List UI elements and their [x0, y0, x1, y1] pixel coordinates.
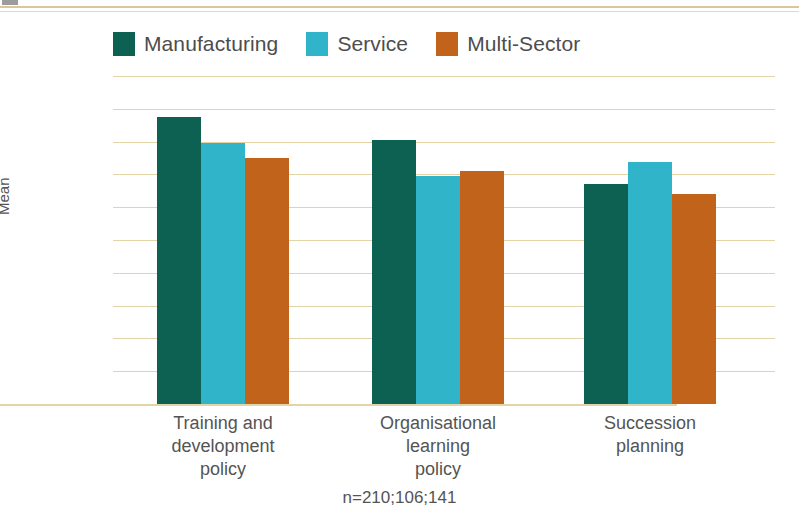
x-axis-category-label-line: policy: [348, 458, 528, 481]
bar-service-group-3[interactable]: [628, 162, 672, 404]
bar-chart: ManufacturingServiceMulti-Sector 5%4.5%4…: [0, 0, 799, 518]
sample-size-annotation: n=210;106;141: [0, 488, 799, 508]
x-axis-category-label-line: policy: [133, 458, 313, 481]
x-axis-category-label: Successionplanning: [560, 412, 740, 458]
bar-manufacturing-group-2[interactable]: [372, 140, 416, 404]
x-axis-category-label-line: Succession: [560, 412, 740, 435]
x-axis-category-label-line: Training and: [133, 412, 313, 435]
bar-service-group-1[interactable]: [201, 143, 245, 404]
x-axis-category-label: Organisationallearningpolicy: [348, 412, 528, 481]
x-axis-category-label-line: learning: [348, 435, 528, 458]
x-axis-baseline: [0, 404, 677, 406]
x-axis-category-label: Training anddevelopmentpolicy: [133, 412, 313, 481]
bar-multi-sector-group-3[interactable]: [672, 194, 716, 404]
x-axis-category-label-line: Organisational: [348, 412, 528, 435]
bar-multi-sector-group-2[interactable]: [460, 171, 504, 404]
bar-series-container: [0, 0, 799, 404]
bar-manufacturing-group-3[interactable]: [584, 184, 628, 404]
bar-service-group-2[interactable]: [416, 176, 460, 404]
bar-manufacturing-group-1[interactable]: [157, 117, 201, 404]
x-axis-category-label-line: planning: [560, 435, 740, 458]
bar-multi-sector-group-1[interactable]: [245, 158, 289, 404]
x-axis-category-label-line: development: [133, 435, 313, 458]
